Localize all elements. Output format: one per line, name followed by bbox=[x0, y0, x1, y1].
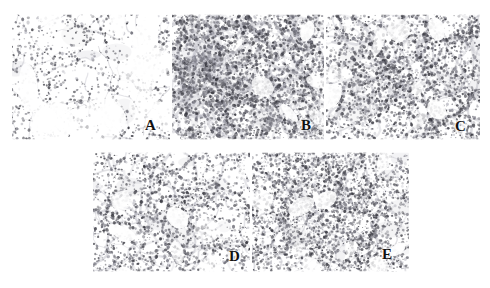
panel-label-e: E bbox=[382, 247, 392, 262]
panel-label-c: C bbox=[455, 119, 466, 134]
panel-label-a: A bbox=[145, 118, 156, 133]
micrograph-canvas bbox=[93, 152, 250, 272]
panel-label-b: B bbox=[301, 118, 311, 133]
panel-label-d: D bbox=[229, 249, 240, 264]
figure-root: ABCDE bbox=[0, 0, 490, 288]
panel-d bbox=[93, 152, 250, 272]
